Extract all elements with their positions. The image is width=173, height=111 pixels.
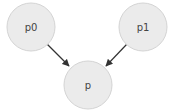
node-label: p1 [137,22,150,33]
node-p[interactable]: p [64,61,112,109]
node-p0[interactable]: p0 [7,3,55,51]
edge-p0-to-p [47,44,69,66]
edge-p1-to-p [106,44,127,66]
node-label: p0 [25,22,38,33]
node-label: p [85,80,91,91]
diagram-canvas: p0 p1 p [0,0,173,111]
node-p1[interactable]: p1 [119,3,167,51]
